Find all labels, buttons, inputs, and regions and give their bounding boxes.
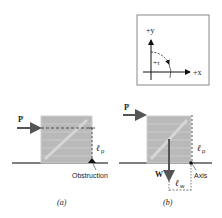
caption-a: (a)	[57, 198, 67, 207]
x-axis-label: +x	[193, 68, 202, 77]
lever-arm-label: ℓ	[96, 143, 100, 153]
torque-diagram: +y +x +τ P → ℓ p Obstruction (a)	[0, 0, 222, 218]
weight-w-label: W	[155, 170, 163, 179]
lever-arm-p-label: ℓ	[197, 143, 201, 153]
lever-arm-w-label: ℓ	[175, 178, 179, 188]
obstruction-label: Obstruction	[72, 172, 108, 179]
svg-text:→: →	[19, 113, 25, 119]
caption-b: (b)	[163, 198, 173, 207]
crate	[41, 116, 92, 163]
axis-label: Axis	[194, 172, 208, 179]
svg-text:p: p	[101, 148, 105, 154]
svg-text:→: →	[125, 101, 131, 107]
panel-b: P → W ℓ p Axis ℓ w (b)	[119, 101, 212, 207]
svg-text:w: w	[179, 183, 185, 189]
y-axis-label: +y	[146, 26, 155, 35]
rotation-label: +τ	[153, 59, 160, 67]
coordinate-inset: +y +x +τ	[137, 15, 209, 85]
panel-a: P → ℓ p Obstruction (a)	[12, 113, 108, 207]
svg-text:p: p	[202, 148, 206, 154]
